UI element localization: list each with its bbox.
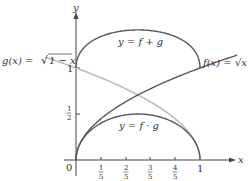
svg-text:√: √ xyxy=(41,54,49,67)
x-fifth-labels: 1 5 2 5 3 5 4 5 xyxy=(99,164,179,181)
y-axis-label: y xyxy=(72,2,79,13)
svg-text:1: 1 xyxy=(67,105,71,113)
function-graph: y x 0 1 1 1 2 1 5 2 5 3 5 4 5 y = f + g … xyxy=(0,0,250,181)
svg-text:5: 5 xyxy=(173,173,177,181)
sum-curve-label: y = f + g xyxy=(117,36,163,47)
y-half-label: 1 2 xyxy=(67,105,72,122)
svg-text:5: 5 xyxy=(148,173,152,181)
g-curve-label: g(x) = √ 1 − x xyxy=(2,54,76,67)
svg-text:3: 3 xyxy=(148,164,152,172)
svg-text:1 − x: 1 − x xyxy=(49,55,76,66)
x-one-label: 1 xyxy=(197,163,203,174)
x-axis-arrow-icon xyxy=(229,158,236,163)
x-axis-label: x xyxy=(238,154,244,165)
svg-text:5: 5 xyxy=(124,173,128,181)
svg-text:4: 4 xyxy=(173,164,178,172)
y-axis-arrow-icon xyxy=(74,12,79,19)
svg-text:2: 2 xyxy=(67,114,71,122)
y-ticks xyxy=(76,68,80,114)
product-curve-label: y = f · g xyxy=(118,120,159,131)
svg-text:1: 1 xyxy=(99,164,103,172)
origin-label: 0 xyxy=(66,162,72,173)
svg-text:5: 5 xyxy=(99,173,103,181)
f-curve-label: f(x) = √x xyxy=(202,57,247,68)
svg-text:2: 2 xyxy=(124,164,128,172)
curve-f-sqrt-x xyxy=(76,55,237,160)
svg-text:g(x) =: g(x) = xyxy=(2,55,33,66)
